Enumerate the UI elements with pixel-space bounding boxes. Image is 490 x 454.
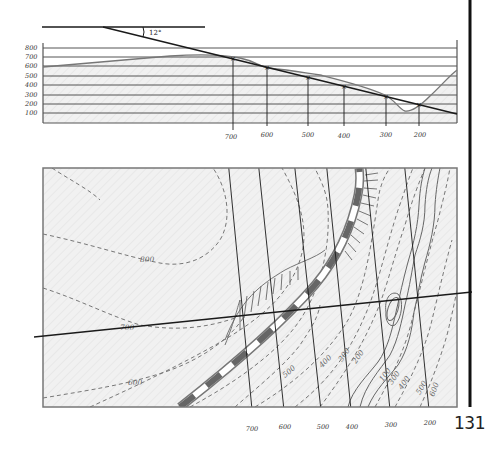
dip-angle-label: 12° xyxy=(149,29,161,37)
profile-label-400: 400 xyxy=(337,132,350,140)
profile-y-labels: 800 700 600 500 400 300 200 100 xyxy=(24,44,37,117)
y-label-800: 800 xyxy=(25,44,37,52)
y-label-600: 600 xyxy=(25,62,37,70)
strike-label-200: 200 xyxy=(423,419,436,427)
contour-label-800: 800 xyxy=(140,255,155,264)
svg-text:×: × xyxy=(264,64,270,72)
svg-text:×: × xyxy=(383,93,389,101)
dip-angle-arc xyxy=(143,27,144,37)
svg-text:×: × xyxy=(341,83,347,91)
strike-label-700: 700 xyxy=(246,425,258,433)
strike-label-400: 400 xyxy=(345,423,358,431)
svg-text:×: × xyxy=(230,55,236,63)
contour-map: 800 700 600 500 400 300 200 100 300 400 … xyxy=(34,160,472,433)
map-strike-labels: 700 600 500 400 300 200 xyxy=(246,419,436,433)
svg-text:×: × xyxy=(305,74,311,82)
profile-label-500: 500 xyxy=(302,131,314,139)
y-label-300: 300 xyxy=(25,91,37,99)
profile-label-700: 700 xyxy=(225,133,237,141)
profile-label-300: 300 xyxy=(380,131,392,139)
y-label-200: 200 xyxy=(24,100,37,108)
y-label-400: 400 xyxy=(24,81,37,89)
profile-label-600: 600 xyxy=(261,131,273,139)
y-label-100: 100 xyxy=(25,109,37,117)
y-label-500: 500 xyxy=(25,72,37,80)
strike-label-300: 300 xyxy=(385,421,397,429)
profile-label-200: 200 xyxy=(413,131,426,139)
page-number: 131 xyxy=(454,413,485,433)
strike-label-600: 600 xyxy=(279,423,291,431)
strike-label-500: 500 xyxy=(317,423,329,431)
contour-label-600: 600 xyxy=(128,378,143,387)
geology-diagram: 800 700 600 500 400 300 200 100 12° × × … xyxy=(0,0,490,454)
cross-section-profile: 800 700 600 500 400 300 200 100 12° × × … xyxy=(24,27,457,141)
y-label-700: 700 xyxy=(25,53,37,61)
svg-text:×: × xyxy=(416,101,422,109)
profile-intersection-labels: 700 600 500 400 300 200 xyxy=(225,131,426,141)
